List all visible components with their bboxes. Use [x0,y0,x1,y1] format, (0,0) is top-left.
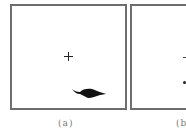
figure-panel-b [130,4,186,110]
dot-marker [183,81,186,84]
crosshair-icon [64,52,73,61]
panel-b-caption: (b [176,118,186,128]
dark-blob-shape [70,86,108,100]
panel-a-caption: (a) [58,118,73,128]
crosshair-partial-icon [183,57,186,58]
